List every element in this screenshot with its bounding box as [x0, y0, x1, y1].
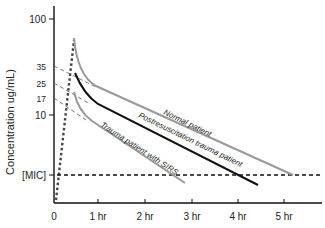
x-tick-2hr: 2 hr: [136, 211, 154, 222]
x-tick-3hr: 3 hr: [183, 211, 201, 222]
y-axis-title: Concentration ug/mL): [4, 69, 16, 175]
infusion-line: [56, 40, 74, 200]
y-tick-25: 25: [37, 79, 47, 89]
y-tick-35: 35: [37, 62, 47, 72]
x-tick-4hr: 4 hr: [229, 211, 247, 222]
y-tick-10: 10: [35, 110, 47, 121]
y-tick-17: 17: [37, 94, 47, 104]
pharmacokinetic-chart: 100 35 25 17 10 [MIC] Concentration ug/m…: [0, 0, 325, 228]
x-tick-1hr: 1 hr: [89, 211, 107, 222]
extrapolation-35: [54, 66, 96, 87]
extrapolation-25: [54, 83, 90, 104]
x-tick-5hr: 5 hr: [275, 211, 293, 222]
y-tick-mic: [MIC]: [22, 170, 46, 181]
normal-patient-curve: [74, 38, 293, 175]
x-tick-0: 0: [51, 211, 57, 222]
y-tick-100: 100: [29, 14, 46, 25]
